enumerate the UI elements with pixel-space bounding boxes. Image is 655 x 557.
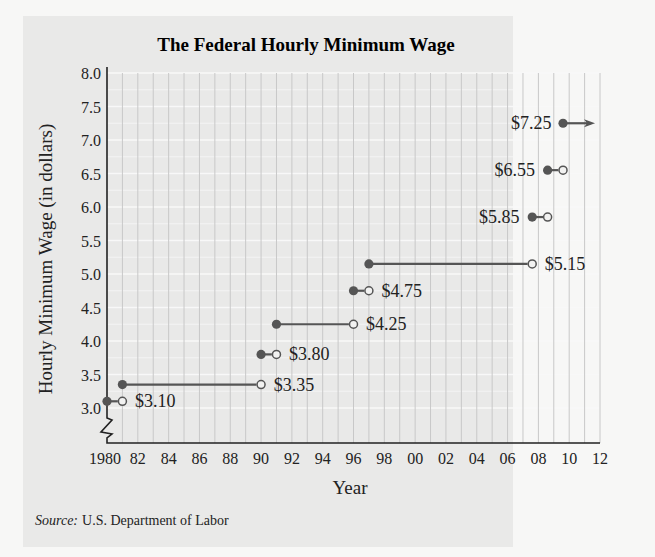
y-tick-label: 6.5 xyxy=(81,166,101,183)
value-label: $4.25 xyxy=(366,314,407,334)
open-point xyxy=(528,260,536,268)
y-tick-label: 5.0 xyxy=(81,266,101,283)
y-tick-label: 7.0 xyxy=(81,132,101,149)
x-axis-label: Year xyxy=(332,477,368,498)
value-label: $6.55 xyxy=(495,160,536,180)
x-tick-label: 88 xyxy=(222,450,238,467)
open-point xyxy=(365,287,373,295)
minimum-wage-chart: 8.07.57.06.56.05.55.04.54.03.53.01980828… xyxy=(0,0,655,557)
y-tick-label: 3.5 xyxy=(81,367,101,384)
closed-point xyxy=(349,286,358,295)
y-tick-label: 8.0 xyxy=(81,65,101,82)
labels: $3.10$3.35$3.80$4.25$4.75$5.15$5.85$6.55… xyxy=(135,113,585,411)
closed-point xyxy=(102,397,111,406)
value-label: $3.80 xyxy=(289,344,330,364)
y-tick-label: 4.5 xyxy=(81,300,101,317)
x-tick-label: 02 xyxy=(438,450,454,467)
y-tick-label: 7.5 xyxy=(81,99,101,116)
open-point xyxy=(559,166,567,174)
x-tick-label: 08 xyxy=(530,450,546,467)
value-label: $3.10 xyxy=(135,391,176,411)
closed-point xyxy=(558,119,567,128)
y-tick-label: 4.0 xyxy=(81,333,101,350)
open-point xyxy=(257,381,265,389)
x-tick-label: 82 xyxy=(130,450,146,467)
closed-point xyxy=(364,259,373,268)
x-tick-label: 98 xyxy=(376,450,392,467)
closed-point xyxy=(272,320,281,329)
y-tick-label: 3.0 xyxy=(81,400,101,417)
value-label: $5.15 xyxy=(545,254,586,274)
closed-point xyxy=(256,350,265,359)
x-tick-label: 12 xyxy=(592,450,608,467)
x-tick-label: 94 xyxy=(315,450,331,467)
x-tick-label: 84 xyxy=(161,450,177,467)
x-tick-label: 1980 xyxy=(89,450,121,467)
y-axis-label: Hourly Minimum Wage (in dollars) xyxy=(35,124,57,394)
y-tick-label: 5.5 xyxy=(81,233,101,250)
closed-point xyxy=(543,166,552,175)
value-label: $4.75 xyxy=(382,281,423,301)
x-tick-label: 90 xyxy=(253,450,269,467)
y-tick-label: 6.0 xyxy=(81,199,101,216)
x-tick-label: 10 xyxy=(561,450,577,467)
x-tick-label: 96 xyxy=(346,450,362,467)
value-label: $5.85 xyxy=(479,207,520,227)
open-point xyxy=(272,350,280,358)
closed-point xyxy=(118,380,127,389)
x-tick-label: 86 xyxy=(191,450,207,467)
open-point xyxy=(544,213,552,221)
closed-point xyxy=(528,212,537,221)
value-label: $3.35 xyxy=(274,375,315,395)
x-tick-label: 04 xyxy=(469,450,485,467)
open-point xyxy=(118,397,126,405)
source-text: U.S. Department of Labor xyxy=(82,513,229,528)
value-label: $7.25 xyxy=(511,113,552,133)
open-point xyxy=(350,320,358,328)
source-note: Source:U.S. Department of Labor xyxy=(35,513,229,528)
x-tick-label: 06 xyxy=(500,450,516,467)
source-label: Source: xyxy=(35,513,78,528)
chart-title: The Federal Hourly Minimum Wage xyxy=(157,34,454,55)
x-tick-label: 92 xyxy=(284,450,300,467)
x-tick-label: 00 xyxy=(407,450,423,467)
